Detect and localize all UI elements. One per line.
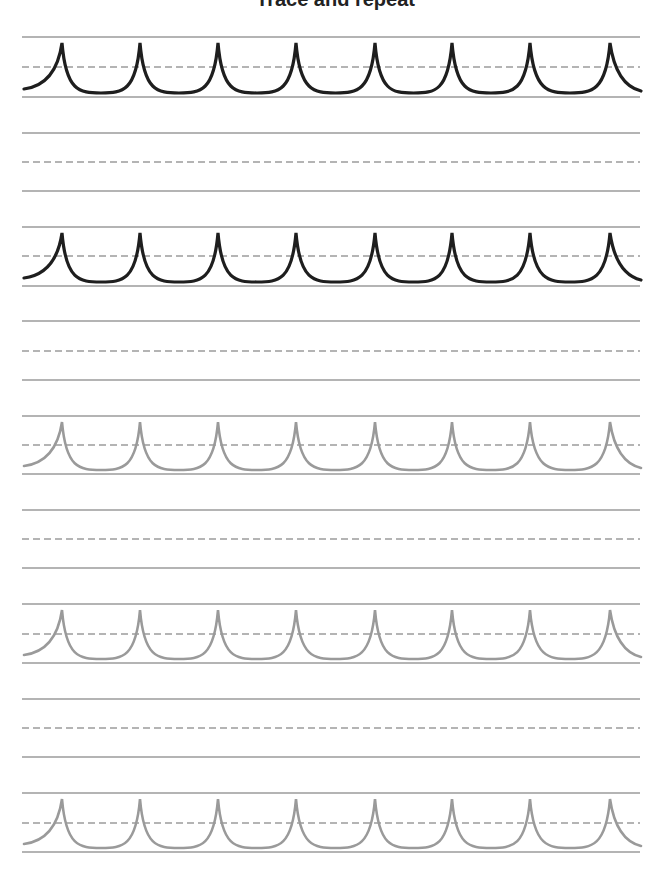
writing-row [22, 416, 641, 474]
writing-row [22, 133, 640, 191]
writing-row [22, 321, 640, 380]
writing-row [22, 793, 641, 852]
writing-row [22, 37, 641, 97]
writing-row [22, 604, 641, 663]
writing-row [22, 227, 641, 286]
scallop-example-pattern [24, 233, 641, 282]
handwriting-guide-sheet [0, 0, 671, 873]
writing-row [22, 699, 640, 757]
writing-row [22, 510, 640, 568]
